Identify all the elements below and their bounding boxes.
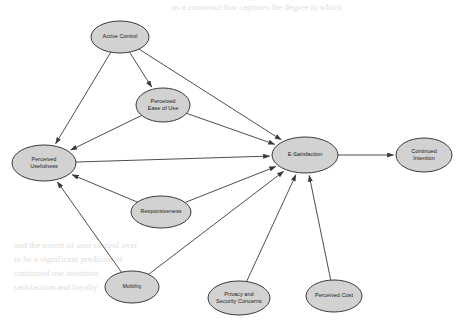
- edge-active_control-to-perceived_use: [56, 52, 111, 144]
- node-label-mobility: Mobility: [122, 283, 141, 289]
- node-label-e_satisfaction: E-Satisfaction: [288, 151, 323, 157]
- edge-responsiveness-to-perceived_use: [72, 175, 137, 202]
- node-e_satisfaction[interactable]: E-Satisfaction: [272, 137, 338, 173]
- node-privacy_security[interactable]: Privacy andSecurity Concerns: [208, 281, 270, 315]
- background-bleed-line: continued use intention: [14, 268, 98, 278]
- edge-active_control-to-perceived_eou: [130, 52, 152, 87]
- node-label-perceived_use: PerceivedUsefulness: [30, 156, 58, 169]
- node-perceived_cost[interactable]: Perceived Cost: [306, 280, 362, 312]
- node-perceived_use[interactable]: PerceivedUsefulness: [12, 145, 76, 181]
- edge-perceived_eou-to-e_satisfaction: [187, 113, 275, 144]
- node-label-responsiveness: Responsiveness: [140, 208, 181, 214]
- edge-perceived_cost-to-e_satisfaction: [309, 175, 331, 280]
- edge-responsiveness-to-e_satisfaction: [185, 167, 276, 203]
- node-perceived_eou[interactable]: PerceivedEase of Use: [136, 88, 190, 122]
- node-label-continued_intent: ContinuedIntention: [411, 148, 437, 161]
- background-bleed-line: to be a significant predictor of: [14, 254, 123, 264]
- node-active_control[interactable]: Active Control: [91, 21, 149, 53]
- edge-perceived_eou-to-perceived_use: [71, 115, 142, 150]
- edge-perceived_use-to-e_satisfaction: [76, 156, 270, 162]
- node-responsiveness[interactable]: Responsiveness: [131, 196, 191, 228]
- background-bleed-line: satisfaction and loyalty: [14, 282, 98, 292]
- node-label-perceived_cost: Perceived Cost: [315, 292, 353, 298]
- edge-privacy_security-to-e_satisfaction: [247, 175, 296, 282]
- background-bleed-line: and the extent of user control over: [14, 240, 137, 250]
- background-bleed-line: as a construct that captures the degree …: [172, 2, 342, 12]
- node-label-active_control: Active Control: [103, 33, 138, 39]
- node-label-perceived_eou: PerceivedEase of Use: [148, 98, 179, 111]
- diagram-canvas: as a construct that captures the degree …: [0, 0, 464, 331]
- node-mobility[interactable]: Mobility: [105, 271, 159, 303]
- node-continued_intent[interactable]: ContinuedIntention: [396, 138, 452, 172]
- model-diagram: as a construct that captures the degree …: [0, 0, 464, 331]
